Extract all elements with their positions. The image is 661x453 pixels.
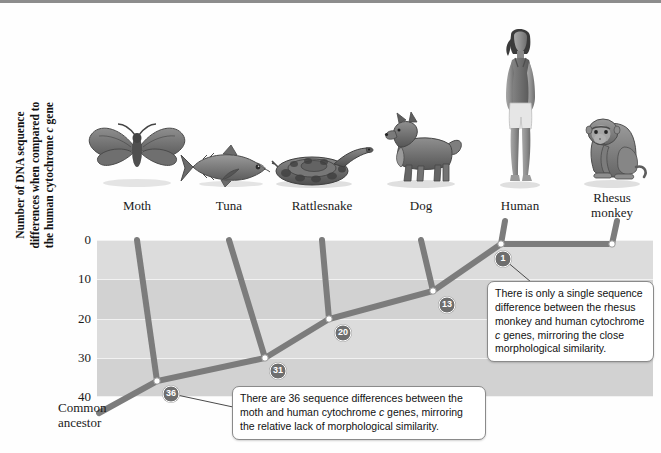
value-badge-moth: 36 [163, 386, 180, 403]
branch-terminal-rattlesnake [322, 240, 329, 319]
tree-node-tuna [262, 355, 268, 361]
callout-rhesus: There is only a single sequence differen… [487, 281, 654, 362]
tree-node-rattlesnake [326, 316, 332, 322]
tree-node-dog [430, 288, 436, 294]
callout-rhesus-text-b: genes, mirroring the close morphological… [495, 329, 624, 355]
tree-node-human [498, 241, 504, 247]
branch-terminal-dog [421, 240, 433, 291]
branch-terminal-moth [137, 240, 157, 381]
common-ancestor-label: Common ancestor [58, 401, 106, 431]
tree-node-moth [154, 378, 160, 384]
callout-moth: There are 36 sequence differences betwee… [232, 386, 486, 440]
value-badge-rhesus: 1 [495, 251, 512, 268]
figure-root: Moth Tuna Rattlesnake Dog Human Rhesus m… [0, 0, 661, 453]
value-badge-dog: 13 [439, 297, 456, 314]
branch-terminal-tuna [229, 240, 265, 358]
common-ancestor-line2: ancestor [58, 416, 106, 431]
leader-line-moth [177, 395, 233, 407]
value-badge-tuna: 31 [270, 363, 287, 380]
tree-node-rhesus [609, 241, 615, 247]
common-ancestor-line1: Common [58, 401, 106, 416]
callout-rhesus-text-a: There is only a single sequence differen… [495, 287, 644, 327]
value-badge-rattlesnake: 20 [335, 325, 352, 342]
